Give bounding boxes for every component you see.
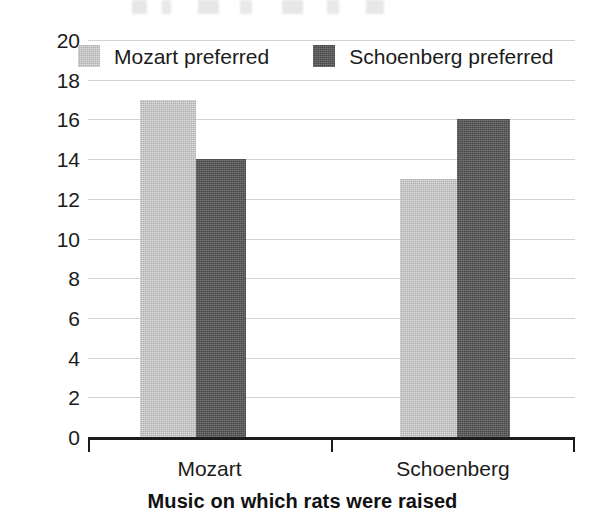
y-tick-label: 8 — [20, 268, 80, 289]
gridline — [88, 80, 575, 81]
bar-chart: 20 18 16 14 12 10 8 6 4 2 0 Moza — [0, 0, 605, 532]
bar-schoenberg-schoenberg-preferred — [457, 119, 510, 437]
y-tick-label: 2 — [20, 387, 80, 408]
y-tick-label: 4 — [20, 347, 80, 368]
bar-mozart-schoenberg-preferred — [196, 159, 246, 437]
y-tick-label: 10 — [20, 228, 80, 249]
bar-schoenberg-mozart-preferred — [400, 179, 457, 437]
x-category-label-schoenberg: Schoenberg — [331, 458, 575, 479]
x-axis-tick-right — [573, 437, 575, 452]
y-tick-label: 20 — [20, 30, 80, 51]
x-axis-tick-center — [331, 437, 333, 452]
y-axis: 20 18 16 14 12 10 8 6 4 2 0 — [0, 40, 80, 437]
gridline — [88, 40, 575, 41]
plot-area — [88, 40, 575, 437]
legend-label: Schoenberg preferred — [349, 46, 553, 67]
y-tick-label: 12 — [20, 188, 80, 209]
legend-swatch-icon — [313, 45, 335, 67]
x-axis — [88, 437, 575, 453]
y-tick-label: 0 — [20, 427, 80, 448]
chart-legend: Mozart preferred Schoenberg preferred — [78, 45, 554, 67]
legend-item-schoenberg-preferred: Schoenberg preferred — [313, 45, 553, 67]
legend-swatch-icon — [78, 45, 100, 67]
legend-label: Mozart preferred — [114, 46, 269, 67]
legend-item-mozart-preferred: Mozart preferred — [78, 45, 269, 67]
y-tick-label: 18 — [20, 69, 80, 90]
x-category-label-mozart: Mozart — [88, 458, 331, 479]
bar-mozart-mozart-preferred — [140, 100, 196, 437]
x-axis-tick-left — [88, 437, 90, 452]
y-tick-label: 14 — [20, 149, 80, 170]
y-tick-label: 16 — [20, 109, 80, 130]
y-tick-label: 6 — [20, 307, 80, 328]
x-axis-title: Music on which rats were raised — [0, 490, 605, 513]
